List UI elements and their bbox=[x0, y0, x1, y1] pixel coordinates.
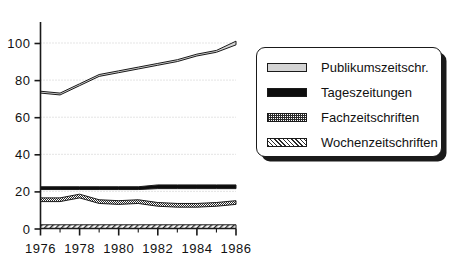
gridlines bbox=[41, 43, 237, 191]
legend-label-tageszeitungen: Tageszeitungen bbox=[321, 86, 412, 99]
legend-label-wochenzeitschriften: Wochenzeitschriften bbox=[321, 136, 438, 149]
chart-legend: Publikumszeitschr. Tageszeitungen Fachze… bbox=[256, 47, 442, 157]
legend-item-wochenzeitschriften: Wochenzeitschriften bbox=[257, 130, 441, 155]
chart-container: 020406080100 197619781980198219841986 Pu… bbox=[0, 0, 451, 271]
legend-item-publikumszeitschr: Publikumszeitschr. bbox=[257, 55, 441, 80]
x-axis-tick-label: 1986 bbox=[221, 241, 252, 256]
legend-swatch-wochenzeitschriften bbox=[267, 138, 307, 147]
x-axis-tick-label: 1978 bbox=[64, 241, 95, 256]
x-axis-ticks bbox=[41, 229, 237, 236]
y-axis-tick-label: 20 bbox=[15, 184, 30, 199]
series-band bbox=[41, 185, 237, 190]
legend-label-fachzeitschriften: Fachzeitschriften bbox=[321, 111, 419, 124]
legend-item-fachzeitschriften: Fachzeitschriften bbox=[257, 105, 441, 130]
x-axis-tick-labels: 197619781980198219841986 bbox=[25, 241, 251, 256]
legend-swatch-publikumszeitschr bbox=[267, 63, 307, 72]
legend-swatch-fachzeitschriften bbox=[267, 113, 307, 122]
x-axis-tick-label: 1980 bbox=[103, 241, 134, 256]
y-axis-tick-label: 100 bbox=[7, 36, 30, 51]
y-axis-tick-label: 0 bbox=[23, 222, 31, 237]
x-axis-tick-label: 1982 bbox=[142, 241, 173, 256]
x-axis-tick-label: 1984 bbox=[181, 241, 212, 256]
x-axis-tick-label: 1976 bbox=[25, 241, 56, 256]
series-band bbox=[41, 194, 237, 207]
series-band bbox=[41, 41, 237, 95]
y-axis-ticks bbox=[35, 44, 41, 230]
y-axis-tick-label: 80 bbox=[15, 73, 30, 88]
data-series-bands bbox=[41, 41, 237, 228]
legend-swatch-tageszeitungen bbox=[267, 88, 307, 97]
legend-item-tageszeitungen: Tageszeitungen bbox=[257, 80, 441, 105]
y-axis-tick-label: 40 bbox=[15, 147, 30, 162]
legend-label-publikumszeitschr: Publikumszeitschr. bbox=[321, 61, 429, 74]
y-axis-tick-label: 60 bbox=[15, 110, 30, 125]
y-axis-tick-labels: 020406080100 bbox=[7, 36, 30, 237]
